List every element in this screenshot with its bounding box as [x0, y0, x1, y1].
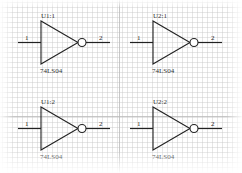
inverter-triangle-icon [41, 21, 78, 64]
inverter-triangle-icon [153, 107, 190, 150]
inverter-bubble-icon [78, 125, 86, 133]
output-pin-number: 2 [211, 120, 215, 128]
inverter-bubble-icon [190, 125, 198, 133]
input-pin-number: 1 [137, 34, 141, 42]
gate-part-label: 74LS04 [40, 153, 63, 161]
gate-part-label: 74LS04 [152, 153, 175, 161]
inverter-u1-1[interactable]: U1:1 74LS04 1 2 [18, 12, 110, 75]
schematic-drawing: U1:1 74LS04 1 2 U2:1 74LS04 1 2 U1:2 74L… [0, 0, 242, 173]
inverter-u1-2[interactable]: U1:2 74LS04 1 2 [18, 98, 110, 161]
output-pin-number: 2 [99, 120, 103, 128]
gate-ref-label: U1:2 [41, 98, 56, 106]
gate-ref-label: U2:2 [153, 98, 168, 106]
gate-ref-label: U1:1 [41, 12, 56, 20]
inverter-bubble-icon [190, 39, 198, 47]
gate-part-label: 74LS04 [152, 67, 175, 75]
input-pin-number: 1 [25, 120, 29, 128]
output-pin-number: 2 [211, 34, 215, 42]
inverter-triangle-icon [153, 21, 190, 64]
output-pin-number: 2 [99, 34, 103, 42]
input-pin-number: 1 [137, 120, 141, 128]
inverter-u2-2[interactable]: U2:2 74LS04 1 2 [130, 98, 222, 161]
inverter-bubble-icon [78, 39, 86, 47]
gate-part-label: 74LS04 [40, 67, 63, 75]
input-pin-number: 1 [25, 34, 29, 42]
inverter-triangle-icon [41, 107, 78, 150]
gate-ref-label: U2:1 [153, 12, 168, 20]
inverter-u2-1[interactable]: U2:1 74LS04 1 2 [130, 12, 222, 75]
